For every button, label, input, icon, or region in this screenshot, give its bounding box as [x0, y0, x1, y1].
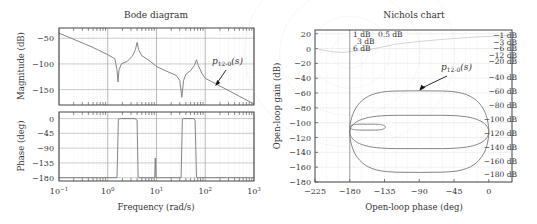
bode-xlabel: Frequency (rad/s): [117, 202, 194, 212]
y-tick-label: −140: [289, 148, 311, 157]
y-tick-label: −160: [289, 163, 311, 172]
y-tick-label: −80: [294, 104, 311, 113]
y-tick-label: −60: [294, 89, 311, 98]
nichols-title: Nichols chart: [383, 10, 445, 20]
y-tick-label: −20: [294, 59, 311, 68]
bode-title: Bode diagram: [124, 10, 188, 20]
annotation-arrow: [422, 76, 447, 88]
m-circle-label: −140 dB: [484, 143, 518, 152]
arrow-head-icon: [419, 85, 425, 91]
x-tick-label: −225: [304, 187, 326, 196]
y-tick-label: −180: [289, 178, 311, 187]
series-label: p12-0(s): [441, 62, 472, 73]
bode-phase-panel: 0−45−90−135−18010−1100101102103: [32, 112, 261, 196]
m-circle-label: −20 dB: [488, 57, 517, 66]
m-circle-label: 0.5 dB: [378, 30, 403, 39]
x-tick-label: 102: [198, 186, 212, 196]
plot-frame: [315, 30, 512, 182]
y-tick-label: 0: [306, 45, 311, 54]
x-tick-label: 0: [486, 187, 491, 196]
m-circle-label: −60 dB: [488, 87, 517, 96]
nichols-loop: [350, 124, 386, 130]
m-circle-label: −160 dB: [484, 157, 518, 166]
m-circle-label: −100 dB: [484, 115, 518, 124]
bode-phase-ylabel: Phase (deg): [16, 121, 26, 172]
bode-mag-ylabel: Magnitude (dB): [16, 32, 26, 100]
x-tick-label: 100: [101, 186, 115, 196]
m-circle-label: 6 dB: [353, 44, 371, 53]
y-tick-label: −180: [32, 174, 54, 183]
nichols-panel: 200−20−40−60−80−100−120−140−160−180−225−…: [245, 0, 518, 196]
nichols-ylabel: Open-loop gain (dB): [272, 63, 282, 150]
figure: Bode diagram −50−100−150p12-0(s) 0−45−90…: [0, 0, 537, 224]
x-tick-label: 10−1: [50, 186, 68, 196]
y-tick-label: −90: [37, 144, 54, 153]
series-label: p12-0(s): [212, 56, 243, 67]
bode-magnitude-panel: −50−100−150p12-0(s): [32, 28, 254, 105]
x-tick-label: 103: [247, 186, 261, 196]
y-tick-label: −40: [294, 74, 311, 83]
x-tick-label: −180: [339, 187, 361, 196]
y-tick-label: −50: [37, 34, 54, 43]
y-tick-label: −45: [37, 129, 54, 138]
zero-db-contour: [315, 35, 512, 52]
y-tick-label: −100: [289, 119, 311, 128]
y-tick-label: −150: [32, 86, 54, 95]
m-circle-label: −120 dB: [484, 129, 518, 138]
nichols-xlabel: Open-loop phase (deg): [365, 202, 463, 212]
x-tick-label: 101: [150, 186, 164, 196]
y-tick-label: 20: [301, 30, 311, 39]
y-tick-label: −100: [32, 60, 54, 69]
m-circle-label: −180 dB: [484, 170, 518, 179]
annotation-arrow: [217, 70, 226, 83]
m-circle-label: −80 dB: [488, 101, 517, 110]
y-tick-label: −135: [32, 159, 54, 168]
y-tick-label: 0: [49, 115, 54, 124]
m-circle-label: −40 dB: [488, 73, 517, 82]
x-tick-label: −135: [374, 187, 396, 196]
x-tick-label: −45: [446, 187, 463, 196]
x-tick-label: −90: [411, 187, 428, 196]
y-tick-label: −120: [289, 134, 311, 143]
